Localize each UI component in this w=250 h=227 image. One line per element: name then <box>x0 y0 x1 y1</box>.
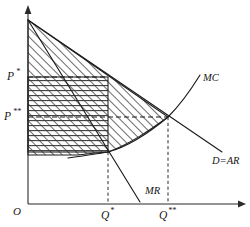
q-star-base: Q <box>101 209 110 221</box>
q-double-star-base: Q <box>159 209 168 221</box>
p-star-label: P * <box>6 67 20 82</box>
p-double-star-label: P ** <box>3 107 21 122</box>
diagram-canvas: O P * P ** Q * Q ** MC MR D=AR <box>0 0 250 227</box>
q-double-star-label: Q ** <box>159 206 176 221</box>
economics-diagram: O P * P ** Q * Q ** MC MR D=AR <box>0 0 250 227</box>
q-star-label: Q * <box>101 206 114 221</box>
q-double-star-superscript: ** <box>168 206 176 215</box>
p-double-star-base: P <box>3 110 11 122</box>
origin-label: O <box>13 205 21 217</box>
marginal-revenue-label: MR <box>144 185 161 196</box>
region-monopoly-profit-rectangle <box>28 77 108 152</box>
p-star-superscript: * <box>16 67 20 76</box>
quantity-axis <box>28 200 246 207</box>
quantity-axis-arrow <box>238 200 246 207</box>
demand-label: D=AR <box>211 155 240 166</box>
p-double-star-superscript: ** <box>13 107 21 116</box>
q-star-superscript: * <box>110 206 114 215</box>
marginal-cost-label: MC <box>202 72 220 83</box>
price-axis-arrow <box>25 5 32 14</box>
p-star-base: P <box>6 70 14 82</box>
